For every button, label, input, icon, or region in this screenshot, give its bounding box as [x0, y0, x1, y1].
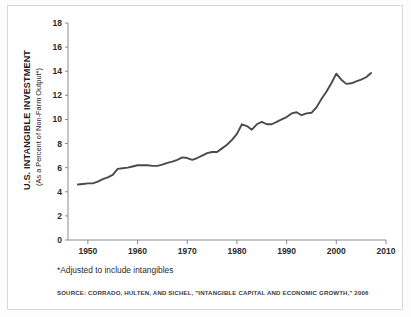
- x-tick-label: 2010: [377, 246, 396, 256]
- y-tick-label: 0: [57, 235, 62, 245]
- x-tick-label: 1950: [78, 246, 97, 256]
- y-axis-title-line2: (As a Percent of Non-Farm Output*): [34, 68, 43, 186]
- x-tick-label: 1990: [277, 246, 296, 256]
- x-tick-label: 2000: [327, 246, 346, 256]
- x-tick-label: 1980: [227, 246, 246, 256]
- y-axis-title-line1: U.S. INTANGIBLE INVESTMENT: [22, 50, 32, 190]
- y-tick-label: 12: [53, 90, 63, 100]
- chart-figure: 024681012141618 195019601970198019902000…: [0, 0, 411, 317]
- y-tick-group: 024681012141618: [53, 18, 68, 245]
- y-axis: 024681012141618: [53, 18, 68, 245]
- y-tick-label: 2: [57, 211, 62, 221]
- data-series-line: [78, 73, 371, 185]
- y-tick-label: 8: [57, 139, 62, 149]
- y-tick-label: 14: [53, 66, 63, 76]
- x-axis: 1950196019701980199020002010: [68, 240, 396, 256]
- x-tick-label: 1970: [178, 246, 197, 256]
- x-tick-group: 1950196019701980199020002010: [78, 240, 395, 256]
- y-tick-label: 16: [53, 42, 63, 52]
- footnote-text: *Adjusted to include intangibles: [57, 265, 173, 275]
- x-tick-label: 1960: [128, 246, 147, 256]
- y-tick-label: 6: [57, 163, 62, 173]
- y-tick-label: 4: [57, 187, 62, 197]
- y-tick-label: 18: [53, 18, 63, 28]
- y-axis-title: U.S. INTANGIBLE INVESTMENT (As a Percent…: [22, 50, 43, 190]
- source-text: SOURCE: CORRADO, HULTEN, AND SICHEL, "IN…: [57, 289, 369, 296]
- y-tick-label: 10: [53, 114, 63, 124]
